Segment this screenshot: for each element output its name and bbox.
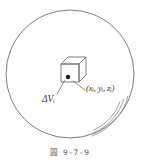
volume-element-cube <box>61 57 86 82</box>
outer-sphere-circle <box>6 10 134 138</box>
sphere-shading-arcs <box>92 96 128 136</box>
cube-front-face <box>61 64 79 82</box>
figure-container: ΔVᵢ (xᵢ, yᵢ, zᵢ) 圖 9-7-9 <box>0 0 141 163</box>
cube-right-face <box>79 57 86 82</box>
sample-point-dot <box>66 75 70 79</box>
figure-drawing-canvas <box>0 0 141 163</box>
